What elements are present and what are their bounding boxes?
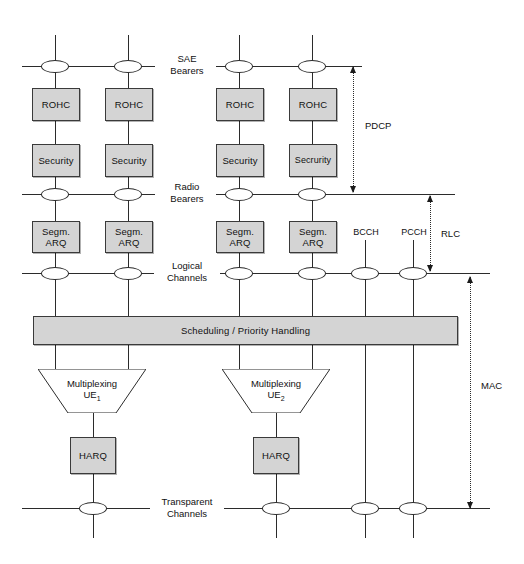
connector-col4-rohc-sec (312, 120, 313, 145)
node-transparent-channel-pcch (399, 502, 427, 515)
multiplexing-ue2: Multiplexing UE2 (222, 369, 330, 413)
connector-col3-sched-mux (239, 344, 240, 370)
segm-arq-box-2-label: Segm. ARQ (115, 226, 143, 248)
node-transparent-channel-1 (79, 502, 107, 515)
connector-col2-sched-mux (128, 344, 129, 370)
rohc-box-1-label: ROHC (42, 99, 70, 110)
bcch-label-text: BCCH (353, 227, 379, 237)
pdcp-label-text: PDCP (365, 120, 391, 131)
connector-col1-rohc-sec (55, 120, 56, 145)
security-box-1: Security (32, 144, 80, 177)
scheduling-bar-label: Scheduling / Priority Handling (181, 325, 310, 336)
security-box-4-label: Secrurity (295, 155, 331, 166)
segm-arq-box-1-label: Segm. ARQ (42, 226, 70, 248)
connector-pcch-sched-tch (413, 344, 414, 509)
harq-box-2-label: HARQ (262, 450, 290, 461)
connector-bcch-sched-tch (365, 344, 366, 509)
rlc-label: RLC (441, 228, 460, 239)
harq-box-1-label: HARQ (79, 450, 107, 461)
stage-label-sae-bearers: SAE Bearers (158, 53, 216, 76)
security-box-2-label: Security (111, 155, 146, 166)
pcch-label-text: PCCH (401, 227, 427, 237)
node-sae-bearer-4 (298, 60, 326, 73)
bcch-label: BCCH (344, 227, 388, 237)
segm-arq-box-3: Segm. ARQ (216, 221, 264, 253)
node-transparent-channel-bcch (351, 502, 379, 515)
rohc-box-3: ROHC (216, 88, 264, 121)
node-radio-bearer-2 (114, 188, 142, 201)
stage-label-transparent-channels-text: Transparent Channels (162, 496, 213, 519)
rohc-box-2: ROHC (105, 88, 153, 121)
connector-col3-rohc-sec (239, 120, 240, 145)
stage-label-transparent-channels: Transparent Channels (150, 496, 224, 519)
node-radio-bearer-1 (41, 188, 69, 201)
node-logical-channel-pcch (399, 267, 427, 280)
rohc-box-4: ROHC (289, 88, 337, 121)
multiplexing-ue1: Multiplexing UE1 (38, 369, 146, 413)
node-logical-channel-4 (298, 267, 326, 280)
security-box-2: Security (105, 144, 153, 177)
protocol-architecture-diagram: ROHC ROHC ROHC ROHC Security Security Se… (0, 0, 524, 564)
security-box-3-label: Security (222, 155, 257, 166)
stage-label-logical-channels: Logical Channels (154, 260, 220, 283)
connector-col4-sched-mux (312, 344, 313, 370)
node-transparent-channel-2 (262, 502, 290, 515)
segm-arq-box-4-label: Segm. ARQ (299, 226, 327, 248)
mac-label: MAC (481, 380, 502, 391)
pdcp-label: PDCP (365, 120, 391, 131)
segm-arq-box-1: Segm. ARQ (32, 221, 80, 253)
node-logical-channel-3 (225, 267, 253, 280)
stage-label-radio-bearers-text: Radio Bearers (170, 181, 203, 204)
node-logical-channel-1 (41, 267, 69, 280)
connector-mux2-harq (276, 412, 277, 438)
harq-box-1: HARQ (70, 437, 116, 474)
segm-arq-box-3-label: Segm. ARQ (226, 226, 254, 248)
node-radio-bearer-3 (225, 188, 253, 201)
rohc-box-3-label: ROHC (226, 99, 254, 110)
node-logical-channel-2 (114, 267, 142, 280)
stage-label-logical-channels-text: Logical Channels (167, 260, 207, 283)
node-sae-bearer-2 (114, 60, 142, 73)
harq-box-2: HARQ (253, 437, 299, 474)
segm-arq-box-4: Segm. ARQ (289, 221, 337, 253)
rohc-box-4-label: ROHC (299, 99, 327, 110)
node-logical-channel-bcch (351, 267, 379, 280)
scheduling-priority-handling-bar: Scheduling / Priority Handling (33, 316, 458, 345)
rohc-box-2-label: ROHC (115, 99, 143, 110)
segm-arq-box-2: Segm. ARQ (105, 221, 153, 253)
mac-label-text: MAC (481, 380, 502, 391)
security-box-4: Secrurity (289, 144, 337, 177)
stage-label-radio-bearers: Radio Bearers (158, 181, 216, 204)
node-sae-bearer-3 (225, 60, 253, 73)
rohc-box-1: ROHC (32, 88, 80, 121)
rlc-label-text: RLC (441, 228, 460, 239)
security-box-3: Security (216, 144, 264, 177)
connector-col2-rohc-sec (128, 120, 129, 145)
security-box-1-label: Security (38, 155, 73, 166)
stage-label-sae-bearers-text: SAE Bearers (170, 53, 203, 76)
node-radio-bearer-4 (298, 188, 326, 201)
node-sae-bearer-1 (41, 60, 69, 73)
connector-col1-sched-mux (55, 344, 56, 370)
connector-mux1-harq (93, 412, 94, 438)
